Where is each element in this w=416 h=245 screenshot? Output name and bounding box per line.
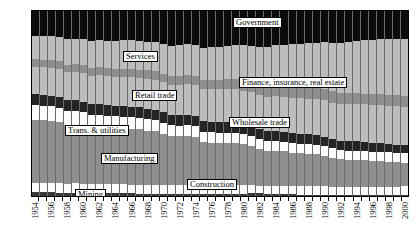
segment-manufacturing xyxy=(272,151,279,186)
segment-government xyxy=(96,11,103,40)
segment-government xyxy=(128,11,135,40)
segment-construction xyxy=(176,185,183,194)
segment-services xyxy=(184,44,191,75)
segment-wholesale-trade xyxy=(168,115,175,125)
segment-retail-trade xyxy=(385,106,392,144)
segment-wholesale-trade xyxy=(112,106,119,116)
segment-construction xyxy=(361,187,368,195)
stacked-column-1984 xyxy=(272,11,280,196)
segment-government xyxy=(48,11,55,36)
segment-mining xyxy=(385,195,392,196)
segment-construction xyxy=(369,187,376,195)
segment-trans-utilities xyxy=(216,133,223,143)
segment-mining xyxy=(232,194,239,196)
segment-construction xyxy=(313,186,320,195)
stacked-column-1955 xyxy=(40,11,48,196)
segment-manufacturing xyxy=(40,120,47,183)
segment-construction xyxy=(393,187,400,196)
segment-government xyxy=(369,11,376,40)
segment-trans-utilities xyxy=(337,150,344,159)
segment-construction xyxy=(329,187,336,195)
segment-construction xyxy=(272,186,279,194)
stacked-column-1969 xyxy=(152,11,160,196)
segment-mining xyxy=(264,194,271,196)
segment-services xyxy=(176,45,183,76)
stacked-column-1967 xyxy=(136,11,144,196)
segment-trans-utilities xyxy=(280,142,287,152)
stacked-column-1993 xyxy=(345,11,353,196)
segment-wholesale-trade xyxy=(305,134,312,144)
segment-government xyxy=(297,11,304,44)
segment-government xyxy=(337,11,344,43)
segment-mining xyxy=(289,194,296,196)
x-axis-label-cell: 1962 xyxy=(95,201,103,245)
segment-trans-utilities xyxy=(297,144,304,153)
x-axis-label-cell: 1970 xyxy=(160,201,168,245)
plot-area: GovernmentServicesFinance, insurance, re… xyxy=(31,10,409,197)
segment-government xyxy=(313,11,320,42)
segment-trans-utilities xyxy=(401,153,408,162)
segment-government xyxy=(385,11,392,39)
segment-government xyxy=(321,11,328,42)
x-axis-label-cell: 1990 xyxy=(321,201,329,245)
segment-retail-trade xyxy=(56,69,63,97)
x-axis-label-cell: 1982 xyxy=(256,201,264,245)
stacked-column-1959 xyxy=(72,11,80,196)
segment-mining xyxy=(248,193,255,196)
segment-services xyxy=(192,45,199,76)
segment-government xyxy=(329,11,336,43)
segment-services xyxy=(385,39,392,95)
segment-construction xyxy=(64,184,71,193)
segment-trans-utilities xyxy=(152,120,159,131)
segment-retail-trade xyxy=(64,72,71,100)
segment-construction xyxy=(160,185,167,194)
segment-manufacturing xyxy=(280,151,287,185)
segment-construction xyxy=(385,187,392,196)
segment-trans-utilities xyxy=(361,151,368,160)
segment-mining xyxy=(305,195,312,196)
stacked-column-1975 xyxy=(200,11,208,196)
stacked-column-1963 xyxy=(104,11,112,196)
stacked-column-1957 xyxy=(56,11,64,196)
segment-retail-trade xyxy=(289,98,296,134)
stacked-column-2000 xyxy=(401,11,408,196)
segment-finance-insurance-real-estate xyxy=(104,68,111,76)
x-axis-label-cell: 1958 xyxy=(63,201,71,245)
stacked-column-1954 xyxy=(32,11,40,196)
x-axis-label-cell: 1976 xyxy=(208,201,216,245)
segment-wholesale-trade xyxy=(80,102,87,113)
callout-finance: Finance, insurance, real estate xyxy=(239,77,347,88)
segment-manufacturing xyxy=(313,154,320,185)
segment-manufacturing xyxy=(184,136,191,185)
segment-trans-utilities xyxy=(144,119,151,130)
segment-retail-trade xyxy=(104,76,111,105)
segment-government xyxy=(345,11,352,42)
segment-wholesale-trade xyxy=(72,100,79,111)
callout-manufacturing: Manufacturing xyxy=(101,153,158,164)
segment-construction xyxy=(136,185,143,194)
segment-government xyxy=(208,11,215,47)
segment-finance-insurance-real-estate xyxy=(393,95,400,106)
segment-government xyxy=(80,11,87,39)
segment-trans-utilities xyxy=(136,118,143,130)
segment-retail-trade xyxy=(353,104,360,141)
segment-trans-utilities xyxy=(240,134,247,144)
segment-mining xyxy=(313,195,320,196)
segment-government xyxy=(176,11,183,45)
segment-services xyxy=(401,39,408,95)
segment-trans-utilities xyxy=(56,108,63,122)
segment-trans-utilities xyxy=(345,151,352,160)
segment-mining xyxy=(321,195,328,196)
segment-trans-utilities xyxy=(329,148,336,157)
segment-manufacturing xyxy=(160,134,167,185)
segment-construction xyxy=(264,186,271,194)
segment-manufacturing xyxy=(289,153,296,186)
stacked-column-1970 xyxy=(160,11,168,196)
segment-finance-insurance-real-estate xyxy=(80,65,87,73)
segment-services xyxy=(224,46,231,79)
segment-construction xyxy=(168,185,175,194)
segment-wholesale-trade xyxy=(289,133,296,143)
segment-construction xyxy=(321,186,328,195)
segment-construction xyxy=(256,186,263,194)
segment-manufacturing xyxy=(337,159,344,187)
